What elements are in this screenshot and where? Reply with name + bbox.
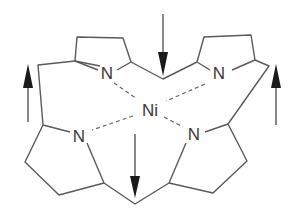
pyrrole-ring-bottom-left — [25, 125, 104, 195]
bond — [169, 143, 186, 183]
nitrogen-label: N — [188, 125, 200, 144]
pyrrole-ring-top-right — [197, 35, 255, 70]
bottom-center-arrow — [130, 134, 140, 198]
coordination-bond — [114, 83, 137, 99]
arrow-head-down — [158, 52, 168, 76]
bond — [232, 60, 255, 70]
nitrogen-label: N — [101, 64, 113, 83]
coordination-bond — [166, 84, 205, 101]
top-center-arrow — [158, 14, 168, 76]
nitrogen-label: N — [213, 64, 225, 83]
chain-left — [38, 61, 75, 125]
left-arrow — [23, 64, 33, 122]
arrow-head-up — [271, 64, 281, 88]
bond — [205, 124, 228, 132]
arrow-head-down — [130, 176, 140, 198]
bond — [43, 125, 70, 132]
bond — [75, 37, 131, 66]
metal-label: Ni — [142, 101, 158, 120]
diagram-canvas: N N N N Ni — [0, 0, 301, 221]
coordination-bond — [164, 117, 183, 127]
bond — [169, 124, 247, 193]
right-arrow — [271, 64, 281, 125]
bond — [117, 62, 131, 70]
bond — [197, 62, 210, 70]
macrocycle-structure: N N N N Ni — [0, 0, 301, 221]
bond — [25, 125, 104, 195]
coordination-bond — [92, 116, 133, 130]
pyrrole-ring-bottom-right — [169, 124, 247, 193]
nitrogen-label: N — [73, 127, 85, 146]
bond — [87, 143, 104, 183]
bond — [197, 35, 255, 62]
arrow-head-up — [23, 64, 33, 88]
